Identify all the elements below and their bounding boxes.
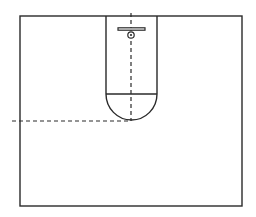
court-diagram xyxy=(0,0,256,217)
backboard xyxy=(118,28,145,30)
hoop-center-marker xyxy=(130,34,132,36)
